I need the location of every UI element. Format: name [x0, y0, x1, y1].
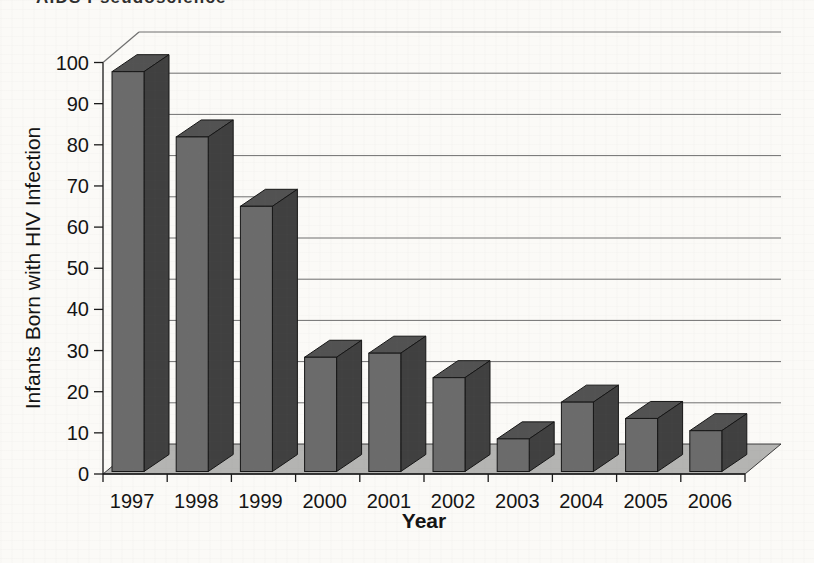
y-tick-label: 80 — [67, 134, 89, 156]
bar-1997 — [112, 55, 169, 472]
x-tick-label: 2003 — [495, 490, 540, 512]
y-tick-label: 20 — [67, 381, 89, 403]
bar-side-face — [337, 340, 362, 471]
bar-front-face — [497, 439, 529, 472]
x-axis-title: Year — [402, 509, 446, 532]
scanned-page: AIDS Pseudoscience 010203040506070809010… — [0, 0, 814, 563]
y-tick-label: 100 — [56, 52, 89, 74]
y-tick-label: 0 — [78, 463, 89, 485]
bar-2002 — [433, 361, 490, 472]
x-tick-label: 2006 — [688, 490, 733, 512]
bar-2001 — [369, 336, 426, 471]
clipped-header: AIDS Pseudoscience — [36, 0, 227, 6]
y-tick-label: 60 — [67, 216, 89, 238]
bar-1999 — [240, 189, 297, 471]
bar-side-face — [144, 55, 169, 472]
clipped-header-text: AIDS Pseudoscience — [36, 0, 227, 6]
x-tick-label: 2004 — [559, 490, 604, 512]
y-tick-label: 70 — [67, 175, 89, 197]
y-tick-label: 90 — [67, 93, 89, 115]
bar-front-face — [240, 206, 272, 471]
bar-chart-3d: 0102030405060708090100199719981999200020… — [0, 0, 814, 563]
bar-side-face — [401, 336, 426, 471]
bar-2000 — [305, 340, 362, 471]
x-tick-label: 2005 — [623, 490, 668, 512]
x-tick-label: 2000 — [302, 490, 347, 512]
y-axis-title: Infants Born with HIV Infection — [21, 127, 44, 409]
bar-2004 — [561, 385, 618, 471]
bar-front-face — [176, 137, 208, 472]
bar-front-face — [561, 402, 593, 471]
bar-front-face — [369, 353, 401, 471]
bar-side-face — [208, 120, 233, 472]
bar-1998 — [176, 120, 233, 472]
y-tick-label: 10 — [67, 422, 89, 444]
bar-side-face — [272, 189, 297, 471]
y-tick-label: 40 — [67, 298, 89, 320]
bar-front-face — [433, 378, 465, 472]
bar-front-face — [112, 72, 144, 472]
bars — [112, 55, 747, 472]
x-tick-label: 1997 — [110, 490, 155, 512]
bar-front-face — [626, 418, 658, 471]
bar-front-face — [690, 431, 722, 472]
bar-side-face — [465, 361, 490, 472]
y-tick-label: 50 — [67, 257, 89, 279]
x-tick-label: 1999 — [238, 490, 283, 512]
y-tick-label: 30 — [67, 340, 89, 362]
bar-front-face — [305, 357, 337, 471]
x-tick-label: 1998 — [174, 490, 219, 512]
